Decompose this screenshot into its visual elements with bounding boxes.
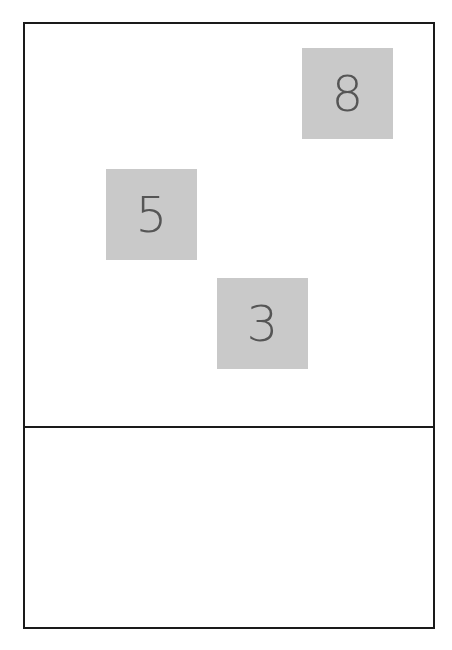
number-tile-8[interactable]: 8: [302, 48, 393, 139]
number-tile-3[interactable]: 3: [217, 278, 308, 369]
game-board: 8 5 3: [23, 22, 435, 629]
number-tile-5[interactable]: 5: [106, 169, 197, 260]
play-area[interactable]: 8 5 3: [25, 24, 433, 426]
answer-tray[interactable]: [25, 428, 433, 627]
